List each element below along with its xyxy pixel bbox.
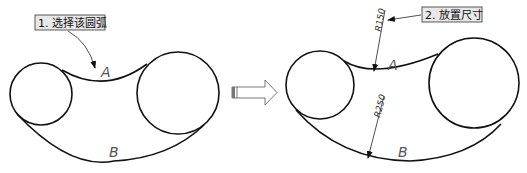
right-arc-a-label: A bbox=[387, 57, 398, 73]
right-small-circle bbox=[286, 51, 354, 119]
diagram-svg: A B 1. 选择该圆弧 A B R150 R250 bbox=[0, 0, 527, 173]
step2-label: 2. 放置尺寸 bbox=[425, 8, 483, 22]
left-arc-b-label: B bbox=[109, 144, 119, 160]
step1-label: 1. 选择该圆弧 bbox=[38, 16, 107, 30]
left-large-circle bbox=[137, 52, 219, 134]
r250-dimension-text[interactable]: R250 bbox=[372, 93, 387, 118]
right-large-circle bbox=[429, 38, 519, 128]
right-arc-b-label: B bbox=[398, 144, 408, 160]
step1-leader-arrow bbox=[68, 31, 95, 68]
step2-leader-arrow bbox=[388, 15, 421, 20]
diagram-canvas: A B 1. 选择该圆弧 A B R150 R250 bbox=[0, 0, 527, 173]
left-figure: A B 1. 选择该圆弧 bbox=[10, 15, 219, 162]
right-figure: A B R150 R250 2. 放置尺寸 bbox=[286, 7, 519, 161]
right-arrow-icon bbox=[232, 80, 277, 105]
left-arc-a-label: A bbox=[100, 64, 111, 80]
r150-dimension-text[interactable]: R150 bbox=[373, 7, 387, 32]
